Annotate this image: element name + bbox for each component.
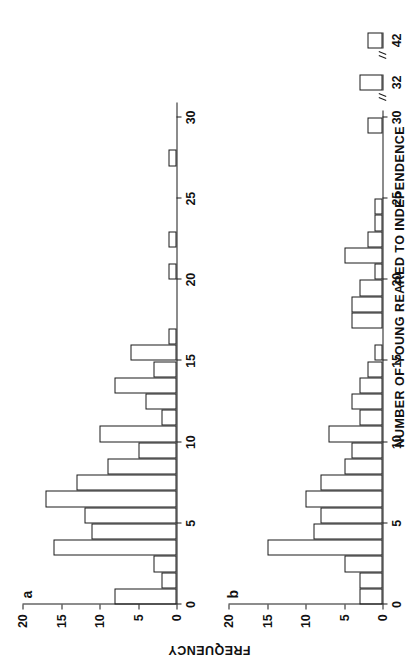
histogram-bar [168, 263, 176, 279]
x-axis-tick-label: 10 [183, 435, 197, 449]
x-axis-tick [176, 441, 181, 442]
x-axis-tick [382, 360, 387, 361]
histogram-bar [168, 231, 176, 247]
histogram-bar [344, 247, 383, 263]
histogram-bar [359, 377, 382, 393]
histogram-bar [351, 393, 382, 409]
histogram-bar [45, 490, 176, 506]
histogram-bar [374, 214, 382, 230]
histogram-bar [91, 523, 176, 539]
histogram-bar [320, 507, 382, 523]
x-axis-tick-label: 5 [389, 519, 403, 526]
y-axis-tick [228, 604, 229, 609]
histogram-bar [168, 149, 176, 165]
histogram-bar [161, 409, 176, 425]
x-axis-tick-label: 20 [183, 273, 197, 287]
x-axis-tick-label: 25 [183, 191, 197, 205]
rotated-figure-frame: 05101520253005101520a 051015202530051015… [0, 0, 413, 662]
y-axis-tick [382, 604, 383, 609]
y-axis-tick-label: 5 [337, 614, 351, 640]
y-axis-tick [22, 604, 23, 609]
histogram-bar-broken-axis [367, 32, 382, 48]
panel-a: 05101520253005101520a [0, 0, 206, 662]
y-axis-tick [99, 604, 100, 609]
y-axis-tick-label: 20 [15, 614, 29, 640]
axis-break-slash [378, 55, 386, 59]
histogram-bar [367, 361, 382, 377]
broken-axis-tick-label: 42 [389, 33, 403, 47]
histogram-bar [320, 474, 382, 490]
histogram-bar [374, 198, 382, 214]
y-axis-title: FREQUENCY [167, 642, 250, 656]
histogram-bar [344, 555, 383, 571]
y-axis-tick-label: 10 [298, 614, 312, 640]
histogram-bar [99, 425, 176, 441]
panel-letter: a [18, 590, 34, 598]
broken-axis-tick-label: 32 [389, 75, 403, 89]
histogram-bar [76, 474, 176, 490]
histogram-bar [130, 344, 176, 360]
y-axis-tick-label: 15 [54, 614, 68, 640]
histogram-bar [328, 425, 382, 441]
x-axis-tick [382, 116, 387, 117]
histogram-bar [168, 328, 176, 344]
x-axis-tick [382, 522, 387, 523]
histogram-bar [359, 572, 382, 588]
y-axis-tick-label: 15 [260, 614, 274, 640]
histogram-bar [114, 377, 176, 393]
histogram-bar [153, 361, 176, 377]
histogram-bar [374, 263, 382, 279]
figure-stage: 05101520253005101520a 051015202530051015… [0, 0, 413, 662]
histogram-bar [351, 312, 382, 328]
histogram-bar [313, 523, 382, 539]
x-axis-tick-label: 0 [389, 601, 403, 608]
histogram-bar [267, 539, 383, 555]
histogram-bar [359, 279, 382, 295]
histogram-bar [53, 539, 176, 555]
histogram-bar [114, 588, 176, 604]
x-axis-tick [382, 441, 387, 442]
histogram-bar [367, 117, 382, 133]
histogram-bar [344, 458, 383, 474]
histogram-bar [367, 231, 382, 247]
x-axis-tick [176, 278, 181, 279]
axis-break-slash [378, 51, 386, 55]
histogram-bar [107, 458, 176, 474]
histogram-bar [351, 442, 382, 458]
x-axis-tick [176, 197, 181, 198]
histogram-bar [359, 409, 382, 425]
x-axis-tick-label: 30 [389, 110, 403, 124]
histogram-bar [305, 490, 382, 506]
histogram-bar-broken-axis [359, 74, 382, 90]
y-axis-tick-label: 0 [169, 614, 183, 640]
broken-axis-stub [382, 32, 383, 48]
x-axis-title: NUMBER OF YOUNG REARED TO INDEPENDENCE [392, 125, 406, 447]
broken-axis-stub [382, 74, 383, 90]
x-axis-tick [176, 116, 181, 117]
y-axis-tick [138, 604, 139, 609]
panel-letter: b [224, 589, 240, 598]
x-axis-tick-label: 15 [183, 354, 197, 368]
histogram-bar [138, 442, 177, 458]
panel-b: 051015202530051015203242b [206, 0, 413, 662]
y-axis-tick [344, 604, 345, 609]
histogram-bar [351, 296, 382, 312]
x-axis-tick [382, 278, 387, 279]
y-axis-tick-label: 5 [131, 614, 145, 640]
histogram-bar [153, 555, 176, 571]
y-axis-tick [267, 604, 268, 609]
histogram-bar [374, 344, 382, 360]
histogram-bar [161, 572, 176, 588]
axis-break-slash [378, 97, 386, 101]
x-axis-tick [176, 522, 181, 523]
histogram-bar [84, 507, 176, 523]
x-axis-tick-label: 5 [183, 519, 197, 526]
y-axis-tick [176, 604, 177, 609]
x-axis-tick [382, 197, 387, 198]
x-axis-tick [176, 360, 181, 361]
y-axis-tick-label: 0 [375, 614, 389, 640]
y-axis-tick-label: 20 [221, 614, 235, 640]
y-axis-tick-label: 10 [92, 614, 106, 640]
y-axis-tick [305, 604, 306, 609]
axis-break-slash [378, 93, 386, 97]
